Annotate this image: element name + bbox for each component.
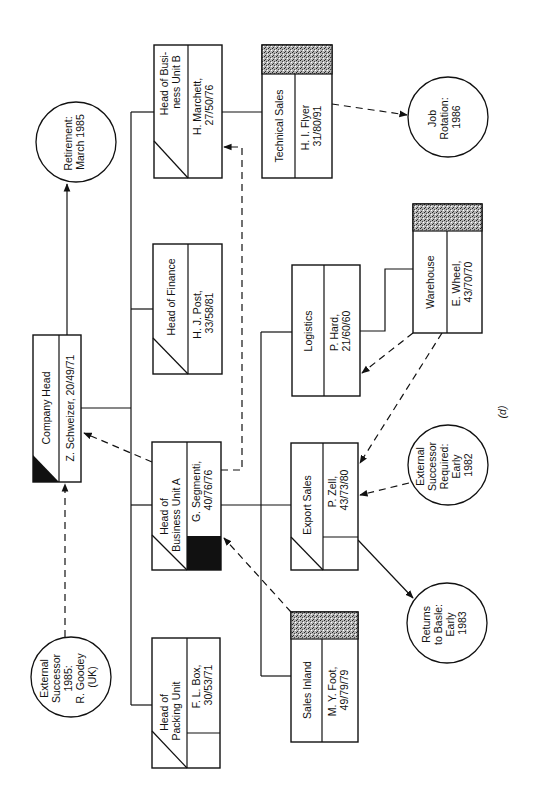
technical-sales-person-2: 31/80/91 (311, 105, 323, 146)
org-succession-chart: Company Head Z. Schweizer, 20/49/71 Head… (0, 0, 538, 812)
export-sales-person-1: P. Zell, (326, 476, 338, 507)
finance-person-2: 33/58/81 (203, 292, 215, 333)
warehouse-title: Warehouse (424, 255, 436, 308)
svg-text:E. Wheel, 43/70/70: E. Wheel, 43/70/70 (450, 258, 474, 306)
sales-inland-person-1: M. Y. Foot, (326, 667, 338, 717)
bu-a-title-1: Head of (158, 498, 170, 535)
packing-person-1: F. L. Box, (190, 665, 202, 709)
warehouse-person-2: 43/70/70 (462, 261, 474, 302)
warehouse-person-1: E. Wheel, (450, 261, 462, 307)
note-external-successor-required: External Successor Required: Early 1982 (408, 425, 488, 505)
box-technical-sales[interactable]: Technical Sales H. I. Flyer 31/80/91 (262, 45, 332, 178)
bu-a-person-1: G. Segmenti, (190, 461, 202, 522)
box-warehouse[interactable]: Warehouse E. Wheel, 43/70/70 (413, 204, 482, 333)
svg-text:M. Y. Foot, 49/79/79: M. Y. Foot, 49/79/79 (326, 664, 350, 717)
finance-person-1: H. J. Post, (191, 290, 203, 338)
note-retirement: Retirement: March 1985 (36, 102, 116, 182)
technical-sales-person-1: H. I. Flyer (299, 104, 311, 150)
packing-title-1: Head of (158, 694, 170, 731)
logistics-person-2: 21/60/60 (340, 310, 352, 351)
box-head-finance[interactable]: Head of Finance H. J. Post, 33/58/81 (153, 244, 222, 374)
box-company-head[interactable]: Company Head Z. Schweizer, 20/49/71 (33, 335, 81, 482)
packing-title-2: Packing Unit (170, 681, 182, 740)
company-head-person: Z. Schweizer, 20/49/71 (64, 354, 76, 461)
box-logistics[interactable]: Logistics P. Hard, 21/60/60 (292, 265, 360, 396)
svg-text:P. Hard, 21/60/60: P. Hard, 21/60/60 (328, 310, 352, 351)
box-head-packing[interactable]: Head of Packing Unit F. L. Box, 30/53/71 (152, 638, 220, 768)
succession-arrows (65, 104, 442, 637)
box-head-bu-b[interactable]: Head of Busi- ness Unit B H. Marchett, 2… (154, 45, 222, 178)
export-sales-person-2: 43/73/80 (338, 469, 350, 510)
hierarchy-connectors (67, 112, 413, 705)
svg-text:Head of Busi- ness Unit: Head of Busi- ness Unit B (158, 49, 182, 116)
bu-a-title-2: Business Unit A (170, 478, 182, 552)
box-head-bu-a[interactable]: Head of Business Unit A G. Segmenti, 40/… (152, 442, 221, 570)
finance-title: Head of Finance (165, 258, 177, 335)
packing-person-2: 30/53/71 (202, 664, 214, 705)
svg-text:H. J. Post, 33/58/81: H. J. Post, 33/58/81 (191, 287, 215, 338)
export-sales-title: Export Sales (301, 475, 313, 535)
sales-inland-title: Sales Inland (301, 661, 313, 719)
svg-text:F. L. Box, 30/53/71: F. L. Box, 30/53/71 (190, 662, 214, 709)
figure-label: (d) (496, 406, 508, 419)
box-sales-inland[interactable]: Sales Inland M. Y. Foot, 49/79/79 (291, 612, 358, 742)
sales-inland-person-2: 49/79/79 (338, 669, 350, 710)
logistics-person-1: P. Hard, (328, 314, 340, 351)
logistics-title: Logistics (302, 311, 314, 352)
box-export-sales[interactable]: Export Sales P. Zell, 43/73/80 (291, 443, 358, 570)
note-external-successor-1985: External Successor 1985: R. Goodey (UK) (31, 637, 111, 717)
bu-b-person-1: H. Marchett, (191, 78, 203, 135)
bu-a-person-2: 40/76/76 (202, 469, 214, 510)
technical-sales-title: Technical Sales (273, 90, 285, 163)
bu-b-person-2: 27/50/76 (203, 84, 215, 125)
bu-b-title-2: ness Unit B (170, 55, 182, 109)
svg-text:H. I. Flyer 31/80/91: H. I. Flyer 31/80/91 (299, 102, 323, 150)
svg-text:P. Zell, 43/73/80: P. Zell, 43/73/80 (326, 469, 350, 510)
bu-b-title-1: Head of Busi- (158, 51, 170, 115)
svg-text:Retirement: March 1985: Retirement: March 1985 (62, 113, 86, 170)
company-head-title: Company Head (40, 371, 52, 444)
note-returns-to-basle: Returns to Basle: Early 1983 (407, 583, 487, 663)
note-job-rotation: Job Rotation: 1986 (408, 77, 488, 157)
